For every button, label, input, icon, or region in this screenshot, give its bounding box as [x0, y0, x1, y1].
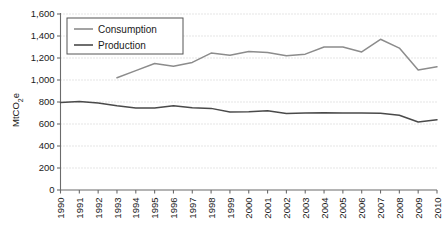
line-chart: 02004006008001,0001,2001,4001,6001990199…: [0, 0, 445, 236]
legend-label-consumption: Consumption: [98, 24, 157, 35]
x-tick-label: 2003: [300, 198, 311, 219]
x-tick-label: 1993: [112, 198, 123, 219]
x-tick-label: 2007: [375, 198, 386, 219]
y-tick-label: 800: [39, 96, 55, 107]
y-axis-ticks: 02004006008001,0001,2001,4001,600: [31, 8, 61, 195]
y-tick-label: 1,400: [31, 30, 55, 41]
x-tick-label: 1999: [225, 198, 236, 219]
y-tick-label: 600: [39, 118, 55, 129]
x-tick-label: 1991: [74, 198, 85, 219]
x-tick-label: 2002: [281, 198, 292, 219]
x-tick-label: 2008: [394, 198, 405, 219]
x-tick-label: 1995: [149, 198, 160, 219]
x-tick-label: 2006: [356, 198, 367, 219]
x-tick-label: 2010: [432, 198, 443, 219]
chart-canvas: 02004006008001,0001,2001,4001,6001990199…: [0, 0, 445, 236]
x-tick-label: 2000: [243, 198, 254, 219]
x-tick-label: 2001: [262, 198, 273, 219]
y-axis-title-text: MtCO2e: [10, 93, 24, 127]
x-tick-label: 1994: [130, 198, 141, 219]
y-axis-title: MtCO2e: [10, 93, 24, 127]
series-line-production: [61, 101, 438, 122]
x-tick-label: 1998: [206, 198, 217, 219]
legend: ConsumptionProduction: [67, 18, 183, 54]
y-tick-label: 1,200: [31, 52, 55, 63]
x-tick-label: 1990: [55, 198, 66, 219]
x-tick-label: 1997: [187, 198, 198, 219]
x-tick-label: 2009: [413, 198, 424, 219]
x-tick-label: 2005: [337, 198, 348, 219]
x-tick-label: 1992: [93, 198, 104, 219]
legend-label-production: Production: [98, 40, 146, 51]
y-tick-label: 1,600: [31, 8, 55, 19]
y-tick-label: 0: [49, 184, 54, 195]
y-tick-label: 400: [39, 140, 55, 151]
y-tick-label: 1,000: [31, 74, 55, 85]
x-axis-ticks: 1990199119921993199419951996199719981999…: [55, 190, 443, 219]
y-tick-label: 200: [39, 162, 55, 173]
x-tick-label: 1996: [168, 198, 179, 219]
x-tick-label: 2004: [319, 198, 330, 219]
